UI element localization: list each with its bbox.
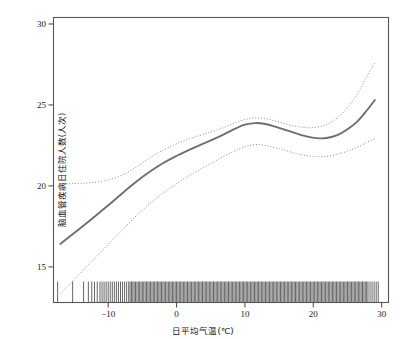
- x-tick-label: 10: [240, 309, 250, 319]
- x-axis-title: 日平均气温(℃): [0, 324, 406, 336]
- x-tick-label: 20: [309, 309, 319, 319]
- plot-frame: [54, 18, 389, 303]
- chart-figure: 15202530−100102030 脑血管疾病日住院人数(人次) 日平均气温(…: [0, 0, 406, 339]
- x-tick-label: 30: [377, 309, 387, 319]
- y-axis-title: 脑血管疾病日住院人数(人次): [55, 112, 67, 227]
- y-tick-label: 15: [37, 262, 47, 272]
- x-tick-label: 0: [174, 309, 179, 319]
- x-tick-label: −10: [101, 309, 116, 319]
- y-tick-label: 25: [37, 100, 47, 110]
- y-tick-label: 30: [37, 19, 47, 29]
- y-tick-label: 20: [37, 181, 47, 191]
